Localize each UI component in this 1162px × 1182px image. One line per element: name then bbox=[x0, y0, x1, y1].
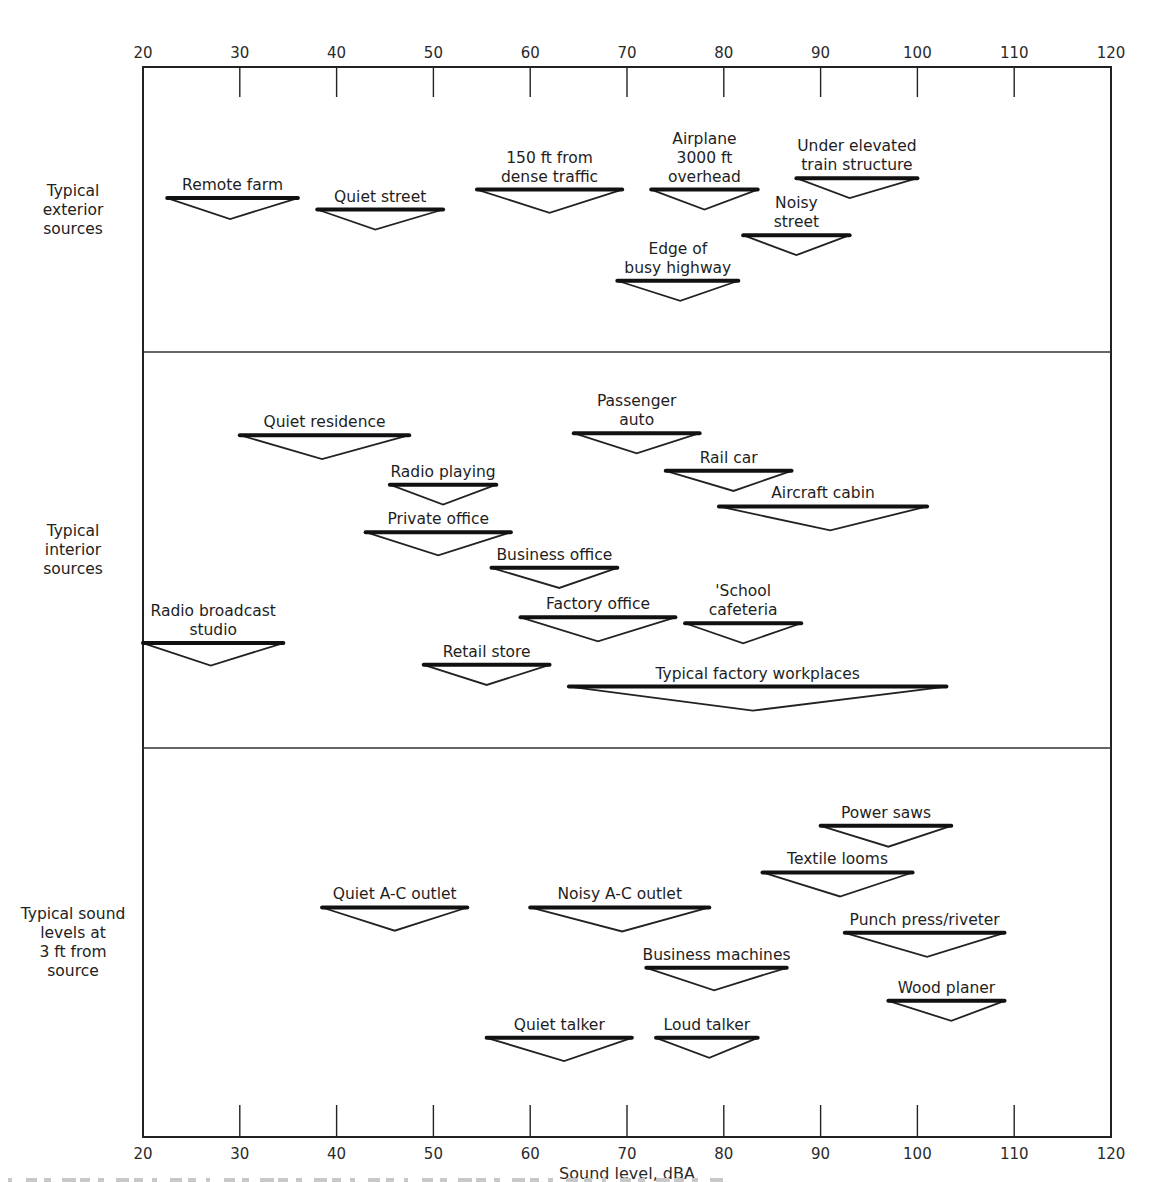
range-marker: Edge ofbusy highway bbox=[617, 240, 738, 301]
range-label: Passengerauto bbox=[597, 392, 677, 429]
range-triangle bbox=[167, 198, 298, 219]
panel-category-label: Typicalinteriorsources bbox=[43, 522, 103, 578]
range-label: Remote farm bbox=[182, 176, 283, 194]
panel-typical-exterior-sources: TypicalexteriorsourcesRemote farmQuiet s… bbox=[43, 130, 918, 301]
range-triangle bbox=[617, 281, 738, 301]
caption-fragment bbox=[296, 1178, 302, 1182]
range-triangle bbox=[322, 907, 467, 930]
caption-fragment bbox=[242, 1178, 249, 1182]
range-triangle bbox=[521, 617, 676, 641]
range-triangle bbox=[143, 643, 283, 665]
range-marker: Quiet A-C outlet bbox=[322, 885, 467, 930]
panel-category-label: Typical soundlevels at3 ft fromsource bbox=[20, 905, 126, 980]
range-label: 150 ft fromdense traffic bbox=[501, 149, 598, 186]
bottom-tick-label: 50 bbox=[424, 1145, 443, 1163]
panel-category-label: Typicalexteriorsources bbox=[43, 182, 104, 238]
caption-fragment bbox=[620, 1178, 631, 1182]
top-tick-label: 50 bbox=[424, 44, 443, 62]
range-label: Quiet street bbox=[334, 188, 426, 206]
bottom-tick-label: 110 bbox=[1000, 1145, 1029, 1163]
range-label: 'Schoolcafeteria bbox=[709, 582, 778, 619]
range-triangle bbox=[574, 433, 700, 453]
range-label: Airplane3000 ftoverhead bbox=[668, 130, 741, 186]
top-tick-label: 90 bbox=[811, 44, 830, 62]
bottom-tick-label: 120 bbox=[1097, 1145, 1126, 1163]
range-label: Factory office bbox=[546, 595, 650, 613]
bottom-tick-label: 100 bbox=[903, 1145, 932, 1163]
range-marker: Noisy A-C outlet bbox=[530, 885, 709, 931]
range-label: Retail store bbox=[443, 643, 531, 661]
range-marker: Punch press/riveter bbox=[845, 911, 1005, 957]
caption-fragment bbox=[422, 1178, 433, 1182]
range-triangle bbox=[656, 1038, 758, 1058]
range-marker: Wood planer bbox=[888, 979, 1004, 1021]
range-label: Noisy A-C outlet bbox=[557, 885, 681, 903]
range-label: Business machines bbox=[643, 946, 791, 964]
bottom-tick-label: 90 bbox=[811, 1145, 830, 1163]
range-triangle bbox=[743, 235, 849, 255]
range-triangle bbox=[390, 485, 496, 505]
caption-fragment bbox=[386, 1178, 394, 1182]
range-marker: Private office bbox=[366, 510, 511, 555]
range-triangle bbox=[651, 190, 757, 210]
range-label: Private office bbox=[387, 510, 489, 528]
top-tick-label: 70 bbox=[617, 44, 636, 62]
range-marker: Quiet talker bbox=[487, 1016, 632, 1061]
caption-fragment bbox=[116, 1178, 129, 1182]
caption-fragment bbox=[512, 1178, 525, 1182]
range-triangle bbox=[530, 907, 709, 931]
range-marker: Retail store bbox=[424, 643, 550, 685]
caption-fragment bbox=[332, 1178, 341, 1182]
top-tick-label: 20 bbox=[133, 44, 152, 62]
range-label: Loud talker bbox=[664, 1016, 751, 1034]
range-marker: Radio broadcaststudio bbox=[143, 602, 283, 665]
range-label: Quiet residence bbox=[263, 413, 385, 431]
top-tick-label: 80 bbox=[714, 44, 733, 62]
range-label: Radio broadcaststudio bbox=[151, 602, 276, 639]
caption-fragment bbox=[656, 1178, 670, 1182]
top-tick-label: 110 bbox=[1000, 44, 1029, 62]
caption-fragment bbox=[26, 1178, 37, 1182]
caption-fragment bbox=[350, 1178, 355, 1182]
range-triangle bbox=[888, 1001, 1004, 1021]
range-marker: 150 ft fromdense traffic bbox=[477, 149, 622, 213]
caption-fragment bbox=[476, 1178, 486, 1182]
bottom-tick-label: 30 bbox=[230, 1145, 249, 1163]
caption-fragment bbox=[368, 1178, 380, 1182]
caption-fragment bbox=[692, 1178, 698, 1182]
range-triangle bbox=[569, 687, 947, 711]
range-marker: Power saws bbox=[821, 804, 952, 847]
range-marker: 'Schoolcafeteria bbox=[685, 582, 801, 643]
range-label: Radio playing bbox=[390, 463, 495, 481]
range-marker: Business office bbox=[491, 546, 617, 588]
range-triangle bbox=[491, 568, 617, 588]
range-triangle bbox=[646, 968, 786, 990]
range-label: Under elevatedtrain structure bbox=[797, 137, 916, 174]
range-marker: Remote farm bbox=[167, 176, 298, 219]
caption-fragment bbox=[188, 1178, 196, 1182]
range-label: Power saws bbox=[841, 804, 931, 822]
range-marker: Loud talker bbox=[656, 1016, 758, 1058]
caption-fragment bbox=[584, 1178, 592, 1182]
range-triangle bbox=[240, 435, 409, 459]
range-triangle bbox=[719, 506, 927, 530]
caption-fragment bbox=[674, 1178, 684, 1182]
range-label: Rail car bbox=[700, 449, 758, 467]
range-label: Textile looms bbox=[786, 850, 888, 868]
range-marker: Radio playing bbox=[390, 463, 496, 505]
range-triangle bbox=[366, 532, 511, 555]
caption-fragment bbox=[134, 1178, 143, 1182]
bottom-tick-label: 20 bbox=[133, 1145, 152, 1163]
range-triangle bbox=[317, 210, 443, 230]
caption-fragment bbox=[170, 1178, 182, 1182]
caption-fragment bbox=[710, 1178, 723, 1182]
caption-fragment bbox=[638, 1178, 645, 1182]
bottom-tick-label: 70 bbox=[617, 1145, 636, 1163]
range-triangle bbox=[845, 933, 1005, 957]
caption-fragment bbox=[314, 1178, 327, 1182]
caption-fragment bbox=[530, 1178, 539, 1182]
range-triangle bbox=[763, 872, 913, 896]
caption-fragment bbox=[8, 1178, 12, 1182]
caption-fragment bbox=[260, 1178, 274, 1182]
caption-fragment bbox=[494, 1178, 500, 1182]
